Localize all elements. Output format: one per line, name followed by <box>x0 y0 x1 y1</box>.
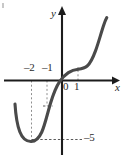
x-axis-label: x <box>115 82 120 93</box>
y-value-label-neg-five: –5 <box>84 132 95 143</box>
y-axis-label: y <box>51 8 56 19</box>
function-graph-figure: –2 –1 0 1 –5 y x <box>0 0 126 159</box>
x-tick-label-neg-two: –2 <box>24 62 35 73</box>
dashed-guides <box>32 67 83 140</box>
y-axis-arrowhead <box>58 6 66 15</box>
x-tick-label-one: 1 <box>74 81 79 92</box>
x-tick-label-neg-one: –1 <box>42 62 53 73</box>
origin-label-zero: 0 <box>63 81 68 92</box>
